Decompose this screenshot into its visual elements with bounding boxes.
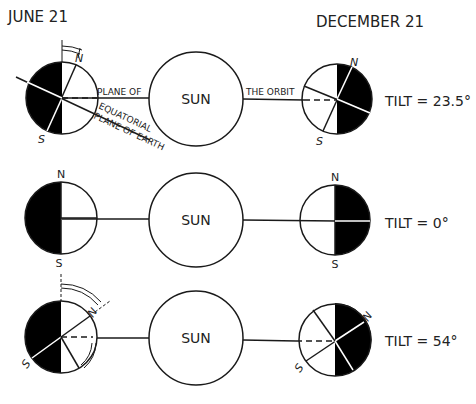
header-june: JUNE 21 <box>7 8 68 26</box>
south-label: S <box>292 361 307 374</box>
header-december: DECEMBER 21 <box>316 13 424 31</box>
south-label: S <box>38 133 45 146</box>
the-orbit-label: THE ORBIT <box>245 87 295 97</box>
earth-june: N S <box>19 274 110 373</box>
south-label: S <box>332 258 339 271</box>
north-label: N <box>57 168 65 181</box>
south-label: S <box>316 135 323 148</box>
row-tilt-0: SUN N S N S TILT = 0° <box>25 168 449 271</box>
earth-december: N S <box>292 303 375 376</box>
row-tilt-54: SUN N S N S TILT <box>19 274 458 385</box>
sun-label: SUN <box>181 212 211 228</box>
north-label: N <box>350 56 358 69</box>
sun-label: SUN <box>181 330 211 346</box>
earth-june: N S EQUATORIAL PLANE OF EARTH <box>16 40 166 152</box>
south-label: S <box>56 257 63 270</box>
south-label: S <box>19 357 34 370</box>
north-label: N <box>75 52 83 65</box>
north-label: N <box>331 171 339 184</box>
tilt-label: TILT = 54° <box>384 333 458 349</box>
tilt-label: TILT = 23.5° <box>384 93 471 109</box>
earth-december: N S <box>302 56 372 148</box>
row-tilt-23: SUN PLANE OF THE ORBIT N S EQUATORIAL PL… <box>16 40 471 152</box>
plane-of-label: PLANE OF <box>97 87 141 97</box>
axial-tilt-diagram: JUNE 21 DECEMBER 21 SUN PLANE OF THE ORB… <box>0 0 476 404</box>
tilt-label: TILT = 0° <box>384 215 449 231</box>
sun-label: SUN <box>181 91 211 107</box>
